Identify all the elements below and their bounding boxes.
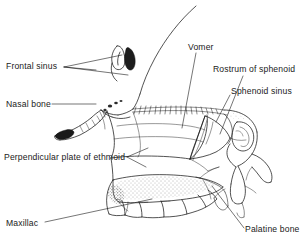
nasal-septum-illustration xyxy=(0,0,305,244)
cribriform-plate-striations xyxy=(133,106,227,115)
label-perpendicular-plate-of-ethmoid: Perpendicular plate of ethmoid xyxy=(4,153,125,162)
label-nasal-bone: Nasal bone xyxy=(6,100,51,109)
nasal-bone xyxy=(55,110,107,140)
label-maxillac: Maxillac xyxy=(6,219,38,228)
anatomical-figure: Frontal sinus Nasal bone Perpendicular p… xyxy=(0,0,305,244)
cranial-vault-outline xyxy=(133,6,196,109)
leader-perp-plate-lower xyxy=(127,157,146,167)
leader-maxillac xyxy=(45,199,152,222)
label-frontal-sinus: Frontal sinus xyxy=(6,62,57,71)
frontal-bone-region xyxy=(101,46,135,115)
leader-frontal-sinus-stem xyxy=(64,67,96,70)
label-rostrum-of-sphenoid: Rostrum of sphenoid xyxy=(213,65,295,74)
label-vomer: Vomer xyxy=(188,43,214,52)
label-palatine-bone: Palatine bone xyxy=(245,225,300,234)
sphenoid-shading xyxy=(226,112,247,120)
anterior-nasal-spine xyxy=(100,100,130,129)
palate-shading xyxy=(116,176,216,199)
leader-palatine-bone xyxy=(212,186,244,228)
label-sphenoid-sinus: Sphenoid sinus xyxy=(231,87,292,96)
sphenoid-body xyxy=(224,110,272,218)
posterior-nasal-floor xyxy=(190,159,219,178)
leader-vomer xyxy=(182,53,196,128)
